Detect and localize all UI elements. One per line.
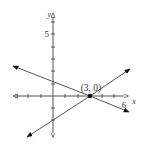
x-axis	[13, 94, 128, 98]
y-axis	[51, 13, 55, 137]
x-tick-label-6: 6	[122, 100, 127, 110]
y-tick-label-5: 5	[45, 29, 50, 39]
coordinate-plane: y 5 (3, 0) 6 x	[0, 0, 142, 144]
increasing-line	[27, 69, 130, 137]
point-label: (3, 0)	[81, 83, 102, 94]
y-axis-label: y	[46, 10, 51, 19]
x-axis-label: x	[131, 97, 136, 106]
intersection-point	[88, 94, 93, 99]
decreasing-line	[13, 66, 129, 112]
